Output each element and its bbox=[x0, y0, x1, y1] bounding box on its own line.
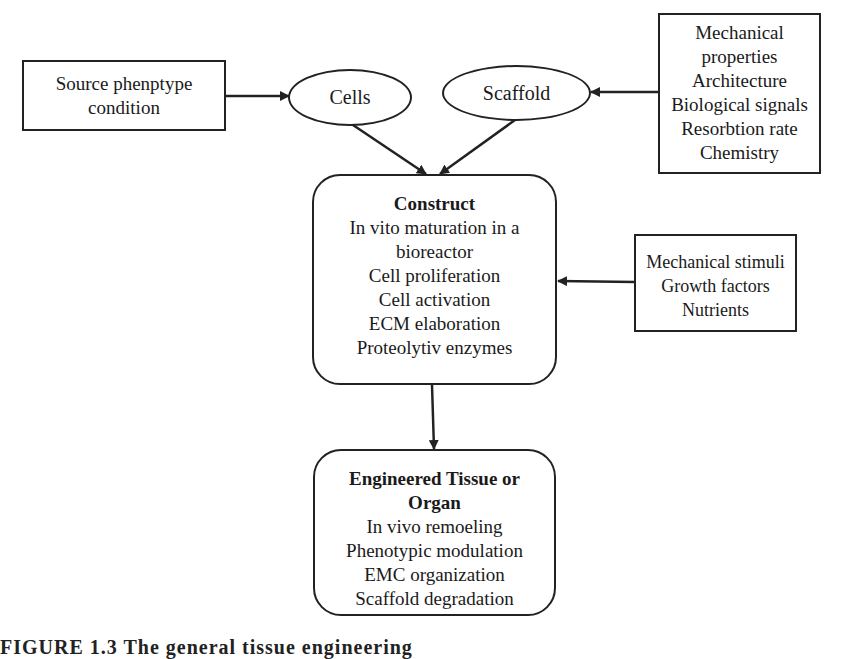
scaffold-properties-box: Mechanical properties Architecture Biolo… bbox=[658, 13, 821, 174]
stimuli-box: Mechanical stimuli Growth factors Nutrie… bbox=[634, 234, 797, 332]
engineered-title: Organ bbox=[315, 491, 554, 515]
stimuli-line: Nutrients bbox=[636, 298, 795, 322]
construct-line: Cell proliferation bbox=[314, 264, 555, 288]
construct-title: Construct bbox=[314, 192, 555, 216]
cells-node: Cells bbox=[288, 69, 412, 126]
engineered-line: In vivo remoeling bbox=[315, 515, 554, 539]
property-line: Architecture bbox=[660, 69, 819, 93]
figure-caption: FIGURE 1.3 The general tissue engineerin… bbox=[0, 636, 413, 659]
stimuli-line: Growth factors bbox=[636, 274, 795, 298]
arrow-stimuli-to-construct bbox=[558, 281, 635, 282]
source-line: Source phenptype bbox=[24, 72, 224, 96]
property-line: Mechanical bbox=[660, 21, 819, 45]
construct-line: ECM elaboration bbox=[314, 312, 555, 336]
engineered-tissue-box: Engineered Tissue or Organ In vivo remoe… bbox=[313, 449, 556, 616]
construct-line: bioreactor bbox=[314, 240, 555, 264]
arrow-scaffold-to-construct bbox=[440, 120, 515, 174]
arrow-construct-to-engineered bbox=[432, 385, 434, 449]
construct-box: Construct In vito maturation in a biorea… bbox=[312, 174, 557, 385]
property-line: Resorbtion rate bbox=[660, 117, 819, 141]
property-line: Chemistry bbox=[660, 141, 819, 165]
source-phenotype-box: Source phenptype condition bbox=[22, 60, 226, 131]
construct-line: In vito maturation in a bbox=[314, 216, 555, 240]
arrow-cells-to-construct bbox=[350, 123, 426, 174]
scaffold-label: Scaffold bbox=[483, 82, 550, 105]
scaffold-node: Scaffold bbox=[442, 65, 591, 121]
construct-line: Cell activation bbox=[314, 288, 555, 312]
engineered-title: Engineered Tissue or bbox=[315, 467, 554, 491]
construct-line: Proteolytiv enzymes bbox=[314, 336, 555, 360]
engineered-line: EMC organization bbox=[315, 563, 554, 587]
engineered-line: Scaffold degradation bbox=[315, 587, 554, 611]
property-line: properties bbox=[660, 45, 819, 69]
engineered-line: Phenotypic modulation bbox=[315, 539, 554, 563]
source-line: condition bbox=[24, 96, 224, 120]
stimuli-line: Mechanical stimuli bbox=[636, 250, 795, 274]
property-line: Biological signals bbox=[660, 93, 819, 117]
cells-label: Cells bbox=[329, 86, 370, 109]
